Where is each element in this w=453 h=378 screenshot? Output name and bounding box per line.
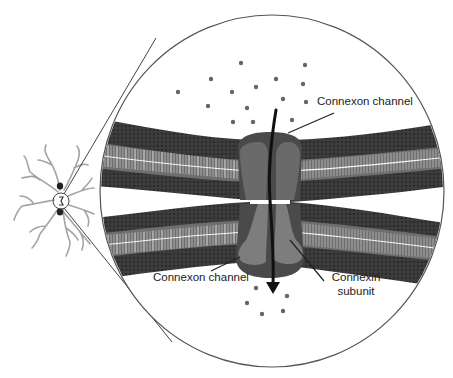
ion-dot [274, 77, 278, 81]
focus-detail [59, 197, 63, 205]
ion-dot [301, 82, 305, 86]
label-connexon-channel-bottom: Connexon channel [153, 270, 249, 284]
neuron-cell [14, 145, 94, 256]
ion-dot [251, 120, 255, 124]
ion-dot [304, 100, 308, 104]
neuron-synapse-top [57, 182, 63, 189]
ion-dot [303, 63, 307, 67]
label-connexin-line2: subunit [320, 284, 392, 298]
diagram-canvas [0, 0, 453, 378]
gap-junction-diagram: Connexon channel Connexon channel Connex… [0, 0, 453, 378]
ion-dot [231, 120, 235, 124]
ion-dot [281, 97, 285, 101]
ion-dot [290, 118, 294, 122]
label-connexin-subunit: Connexin subunit [320, 270, 392, 298]
ion-dot [281, 309, 285, 313]
ion-dot [254, 286, 258, 290]
ion-dot [260, 312, 264, 316]
ion-dot [176, 90, 180, 94]
ion-dot [230, 90, 234, 94]
ion-dot [245, 106, 249, 110]
label-connexin-line1: Connexin [320, 270, 392, 284]
ion-dot [285, 294, 289, 298]
ion-dot [254, 85, 258, 89]
label-connexon-channel-top: Connexon channel [317, 94, 413, 108]
ion-dot [239, 61, 243, 65]
neuron-synapse-bottom [57, 208, 63, 215]
ion-dot [209, 77, 213, 81]
ion-dot [245, 301, 249, 305]
ion-dot [206, 104, 210, 108]
